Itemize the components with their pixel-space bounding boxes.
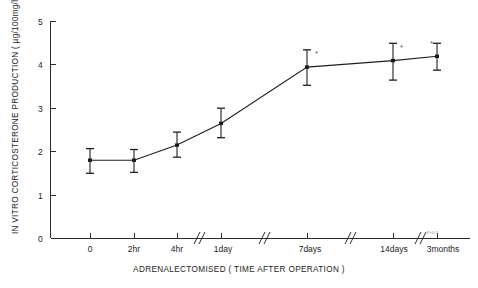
data-point-14days: * [389, 43, 403, 80]
data-point-0 [86, 149, 94, 174]
x-axis-title: ADRENALECTOMISED ( TIME AFTER OPERATION … [133, 265, 345, 274]
y-tick-label-5: 5 [38, 17, 43, 27]
y-tick-label-4: 4 [38, 60, 43, 70]
y-axis-label: IN VITRO CORTICOSTERONE PRODUCTION ( µg/… [11, 0, 20, 234]
y-axis-ticks [51, 22, 57, 239]
x-tick-label-1day: 1day [214, 244, 233, 254]
significance-mark-14days: * [400, 43, 403, 52]
x-tick-label-0: 0 [88, 244, 93, 254]
y-tick-label-1: 1 [38, 191, 43, 201]
chart-page: IN VITRO CORTICOSTERONE PRODUCTION ( µg/… [0, 0, 478, 288]
line-chart: IN VITRO CORTICOSTERONE PRODUCTION ( µg/… [0, 0, 478, 288]
data-point-2hr [130, 150, 138, 173]
y-axis-tick-labels: 5 4 3 2 1 0 [38, 17, 43, 244]
data-point-1day [217, 108, 225, 138]
faint-annotation: P<0.1 [427, 230, 439, 235]
x-tick-label-14days: 14days [380, 244, 407, 254]
data-point-4hr [173, 132, 181, 157]
x-tick-label-7days: 7days [299, 244, 322, 254]
data-point-3months: * [430, 39, 441, 70]
significance-mark-7days: * [315, 49, 318, 58]
x-tick-label-3months: 3months [427, 244, 460, 254]
x-tick-label-4hr: 4hr [171, 244, 183, 254]
y-tick-label-2: 2 [38, 147, 43, 157]
error-bars-and-markers: * * * [86, 39, 441, 173]
series-line-corticosterone [90, 56, 437, 160]
significance-mark-3months: * [430, 39, 433, 48]
x-tick-label-2hr: 2hr [128, 244, 140, 254]
x-axis-tick-labels: 0 2hr 4hr 1day 7days 14days 3months [88, 244, 460, 254]
y-tick-label-0: 0 [38, 234, 43, 244]
y-tick-label-3: 3 [38, 104, 43, 114]
